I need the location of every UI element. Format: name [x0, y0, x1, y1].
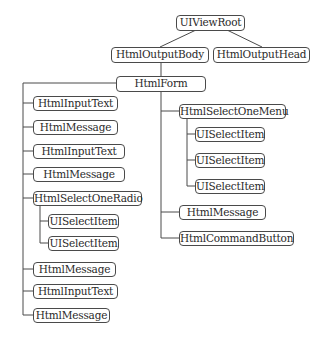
node-htmlcommandbutton: HtmlCommandButton [179, 231, 294, 246]
node-htmlmessage-3: HtmlMessage [33, 262, 116, 277]
node-radio-uiselectitem-1: UISelectItem [48, 214, 119, 229]
node-htmlmessage-1: HtmlMessage [33, 120, 118, 135]
node-menu-uiselectitem-3: UISelectItem [195, 179, 265, 194]
node-menu-uiselectitem-2: UISelectItem [195, 153, 265, 168]
node-menu-uiselectitem-1: UISelectItem [195, 127, 265, 142]
node-radio-uiselectitem-2: UISelectItem [48, 236, 119, 251]
edge-root-head [227, 30, 262, 47]
component-tree-diagram: UIViewRoot HtmlOutputBody HtmlOutputHead… [0, 0, 324, 341]
node-htmlform: HtmlForm [116, 76, 206, 92]
node-htmlmessage-4: HtmlMessage [33, 308, 110, 323]
edge-radio-trunk [40, 205, 48, 243]
edge-root-body [160, 30, 196, 47]
edge-form-right-trunk [161, 91, 179, 238]
node-htmlmessage-5: HtmlMessage [179, 205, 266, 220]
node-htmlinputtext-2: HtmlInputText [33, 144, 125, 159]
edge-menu-trunk [187, 118, 195, 186]
node-htmlinputtext-3: HtmlInputText [33, 284, 118, 299]
node-htmlmessage-2: HtmlMessage [33, 167, 125, 182]
node-htmlinputtext-1: HtmlInputText [33, 96, 118, 111]
node-htmlselectonemenu: HtmlSelectOneMenu [179, 104, 286, 119]
node-htmloutputhead: HtmlOutputHead [213, 47, 310, 63]
node-uiviewroot: UIViewRoot [176, 15, 245, 31]
node-htmlselectoneradio: HtmlSelectOneRadio [33, 191, 142, 206]
node-htmloutputbody: HtmlOutputBody [111, 47, 209, 63]
